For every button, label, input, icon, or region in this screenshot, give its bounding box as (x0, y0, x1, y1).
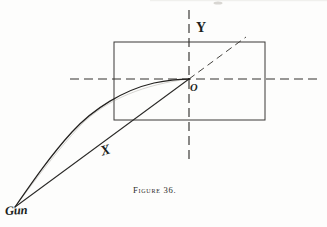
origin-label: O (190, 83, 198, 94)
figure-page: Y O X Gun Figure 36. (0, 0, 327, 227)
figure-caption: Figure 36. (133, 186, 177, 195)
y-axis-label: Y (196, 21, 206, 35)
scan-smudge-artifact (214, 1, 223, 4)
line-of-departure-dashed (189, 37, 246, 79)
scan-edge-artifact (150, 0, 327, 1)
origin-point-marker (188, 78, 190, 80)
gun-label: Gun (5, 204, 28, 218)
